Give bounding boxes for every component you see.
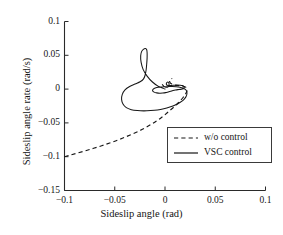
y-axis-title: Sideslip angle rate (rad/s): [21, 17, 32, 207]
dashed-line-icon: [173, 133, 199, 143]
y-tick-label: 0: [8, 84, 60, 94]
y-tick-label: −0.05: [8, 118, 60, 128]
y-tick-label: 0.1: [8, 17, 60, 27]
series-vsc-control: [122, 49, 187, 111]
legend-label-vsc-control: VSC control: [204, 148, 252, 158]
y-tick-label: 0.05: [8, 51, 60, 61]
y-tick-label: −0.1: [8, 152, 60, 162]
legend-label-wo-control: w/o control: [204, 133, 248, 143]
y-axis-ticks: [65, 22, 69, 191]
solid-line-icon: [173, 148, 199, 158]
y-tick-label: −0.15: [8, 186, 60, 196]
chart-figure: 0.10.050−0.05−0.1−0.15 −0.1−0.0500.050.1…: [0, 0, 283, 235]
chart-legend: w/o control VSC control: [167, 127, 272, 163]
x-tick-label: −0.1: [56, 196, 73, 206]
x-axis-title: Sideslip angle (rad): [0, 208, 283, 219]
x-axis-ticks: [65, 187, 266, 191]
legend-item-wo-control: w/o control: [168, 130, 271, 145]
x-tick-label: 0: [163, 196, 168, 206]
x-tick-label: −0.05: [104, 196, 126, 206]
x-tick-label: 0.05: [207, 196, 224, 206]
legend-item-vsc-control: VSC control: [168, 145, 271, 160]
x-tick-label: 0.1: [260, 196, 272, 206]
axes-group: [65, 22, 266, 191]
